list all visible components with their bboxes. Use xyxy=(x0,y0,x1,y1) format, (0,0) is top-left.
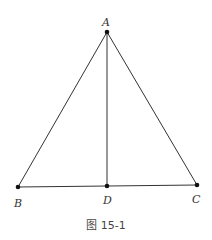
segment-ac xyxy=(107,32,197,185)
label-a: A xyxy=(101,16,110,29)
point-b xyxy=(16,185,21,190)
point-c xyxy=(195,183,200,188)
point-a xyxy=(105,30,110,35)
label-c: C xyxy=(192,193,201,206)
point-d xyxy=(105,184,110,189)
figure-caption: 图 15-1 xyxy=(86,219,125,232)
triangle-diagram: A B D C 图 15-1 xyxy=(0,0,212,240)
label-b: B xyxy=(13,197,22,210)
label-d: D xyxy=(102,194,112,207)
segment-ab xyxy=(18,32,107,187)
